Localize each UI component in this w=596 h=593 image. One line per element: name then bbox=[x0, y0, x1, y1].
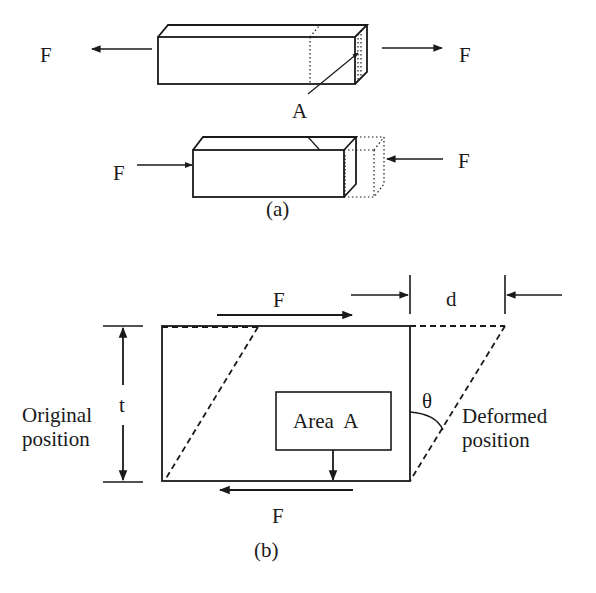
stress-strain-diagram: F F A F F (a) F F d bbox=[0, 0, 596, 593]
tension-right-force-label: F bbox=[459, 43, 471, 67]
top-force-label: F bbox=[273, 288, 285, 312]
tension-left-force-label: F bbox=[40, 43, 52, 67]
caption-a: (a) bbox=[266, 197, 289, 221]
figure-a bbox=[92, 25, 443, 197]
compression-left-force-label: F bbox=[113, 161, 125, 185]
tension-bar bbox=[158, 25, 367, 84]
thickness-label: t bbox=[119, 393, 125, 417]
deformed-position-label-line1: Deformed bbox=[462, 404, 548, 428]
deformed-position-label-line2: position bbox=[462, 428, 530, 452]
area-label: A bbox=[292, 99, 308, 123]
bottom-force-label: F bbox=[272, 504, 284, 528]
compression-bar bbox=[193, 137, 384, 197]
area-box-label: Area A bbox=[293, 409, 359, 433]
original-position-label-line1: Original bbox=[22, 403, 92, 427]
displacement-label: d bbox=[446, 287, 457, 311]
compression-right-force-label: F bbox=[458, 149, 470, 173]
caption-b: (b) bbox=[254, 538, 279, 562]
original-position-label-line2: position bbox=[22, 427, 90, 451]
angle-label: θ bbox=[422, 389, 432, 413]
figure-b bbox=[103, 275, 562, 490]
theta-arc bbox=[410, 412, 443, 430]
